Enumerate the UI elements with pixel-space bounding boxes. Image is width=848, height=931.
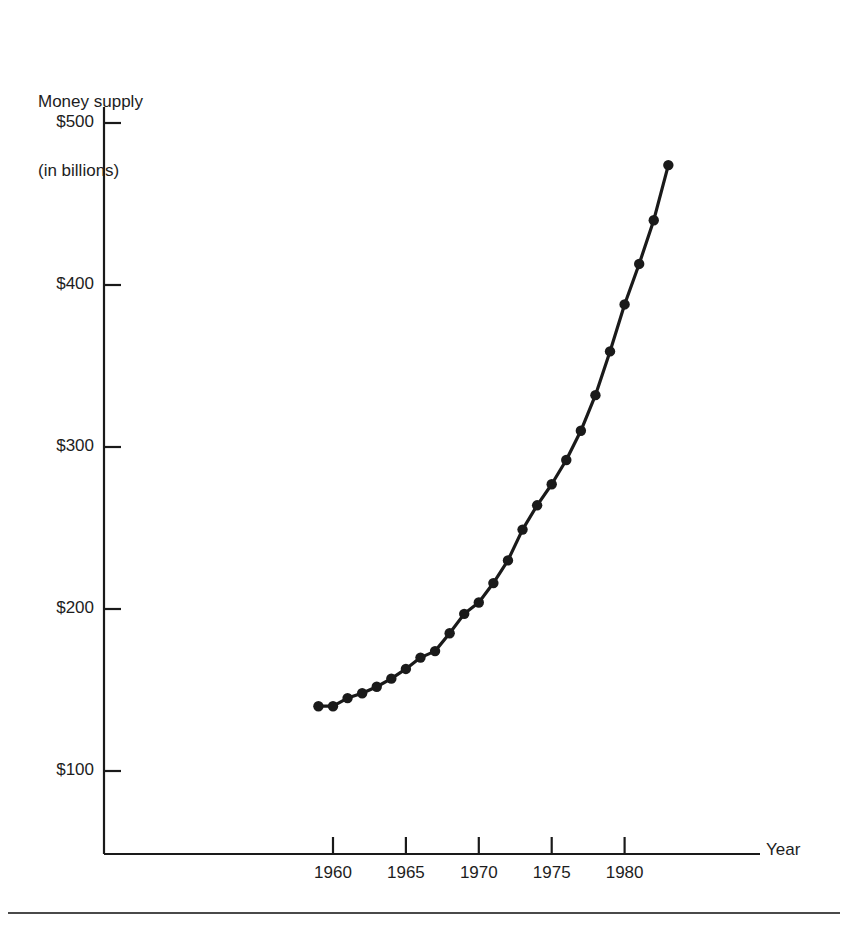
y-axis-title-line2: (in billions): [38, 159, 143, 182]
data-point: [532, 500, 542, 510]
data-point: [401, 664, 411, 674]
data-point: [372, 682, 382, 692]
money-supply-line-chart: Money supply (in billions) Year $100$200…: [0, 0, 848, 931]
x-axis-tick-label: 1975: [524, 863, 580, 883]
x-axis-tick-label: 1980: [597, 863, 653, 883]
x-axis-tick-label: 1970: [451, 863, 507, 883]
y-axis-tick-label: $200: [32, 598, 94, 618]
data-point: [619, 299, 629, 309]
data-point: [590, 390, 600, 400]
data-point: [663, 160, 673, 170]
data-series: [313, 160, 673, 711]
data-point: [561, 455, 571, 465]
data-point: [474, 597, 484, 607]
data-point: [430, 646, 440, 656]
footer-divider-rule: [8, 912, 840, 914]
data-point: [576, 426, 586, 436]
data-point: [459, 609, 469, 619]
data-point: [488, 578, 498, 588]
axes: [104, 107, 760, 854]
data-point: [605, 346, 615, 356]
y-axis-tick-label: $100: [32, 760, 94, 780]
data-point: [503, 555, 513, 565]
x-axis-tick-label: 1965: [378, 863, 434, 883]
y-axis-title-line1: Money supply: [38, 90, 143, 113]
data-point: [517, 524, 527, 534]
y-axis-tick-label: $300: [32, 436, 94, 456]
data-point: [547, 479, 557, 489]
axis-ticks: [104, 123, 625, 854]
x-axis-title: Year: [766, 838, 800, 861]
data-point: [415, 652, 425, 662]
y-axis-tick-label: $500: [32, 112, 94, 132]
data-point: [649, 215, 659, 225]
data-point: [313, 701, 323, 711]
data-point: [328, 701, 338, 711]
data-point: [357, 688, 367, 698]
data-point: [342, 693, 352, 703]
y-axis-title: Money supply (in billions): [38, 44, 143, 228]
data-point: [386, 673, 396, 683]
series-line: [318, 165, 668, 706]
y-axis-tick-label: $400: [32, 274, 94, 294]
data-point: [634, 259, 644, 269]
x-axis-tick-label: 1960: [305, 863, 361, 883]
data-point: [444, 628, 454, 638]
